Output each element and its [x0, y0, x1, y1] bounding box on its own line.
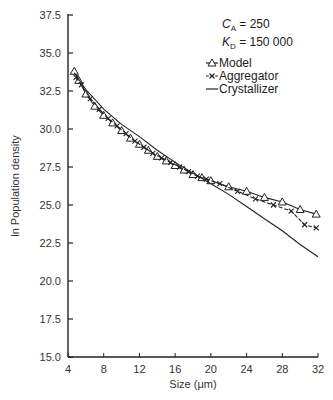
annotation-c: CA = 250 [222, 17, 270, 33]
x-tick-label: 16 [169, 363, 181, 375]
series-crystallizer [74, 73, 318, 257]
x-tick-label: 8 [101, 363, 107, 375]
series-line [74, 71, 316, 214]
series-model [70, 67, 320, 217]
series-line [74, 73, 318, 257]
y-tick-label: 20.0 [40, 275, 61, 287]
legend-label: Model [219, 56, 252, 70]
y-tick-label: 37.5 [40, 9, 61, 21]
x-marker [210, 74, 215, 79]
x-tick-label: 32 [312, 363, 324, 375]
triangle-marker [82, 90, 90, 97]
y-tick-label: 22.5 [40, 237, 61, 249]
legend-label: Crystallizer [219, 82, 278, 96]
x-tick-label: 12 [133, 363, 145, 375]
series-aggregator [74, 75, 319, 230]
x-marker [302, 222, 307, 227]
legend-item-aggregator: Aggregator [206, 69, 278, 83]
annotation-k: KD = 150 000 [222, 35, 293, 51]
legend-item-crystallizer: Crystallizer [206, 82, 278, 96]
x-tick-label: 28 [276, 363, 288, 375]
y-axis-label: ln Population density [9, 135, 21, 237]
legend-label: Aggregator [219, 69, 278, 83]
triangle-marker [296, 206, 304, 213]
x-tick-label: 24 [240, 363, 252, 375]
chart: 15.017.520.022.525.027.530.032.535.037.5… [0, 0, 333, 400]
y-tick-label: 30.0 [40, 123, 61, 135]
x-tick-label: 4 [65, 363, 71, 375]
y-tick-label: 15.0 [40, 351, 61, 363]
x-tick-label: 20 [205, 363, 217, 375]
x-marker [289, 209, 294, 214]
axes: 15.017.520.022.525.027.530.032.535.037.5… [9, 9, 324, 390]
y-tick-label: 32.5 [40, 85, 61, 97]
y-tick-label: 27.5 [40, 161, 61, 173]
y-tick-label: 25.0 [40, 199, 61, 211]
y-tick-label: 17.5 [40, 313, 61, 325]
x-marker [271, 203, 276, 208]
y-tick-label: 35.0 [40, 47, 61, 59]
legend: CA = 250KD = 150 000ModelAggregatorCryst… [206, 17, 293, 96]
legend-item-model: Model [206, 56, 252, 70]
x-axis-label: Size (μm) [169, 378, 216, 390]
series-layer [70, 67, 320, 256]
